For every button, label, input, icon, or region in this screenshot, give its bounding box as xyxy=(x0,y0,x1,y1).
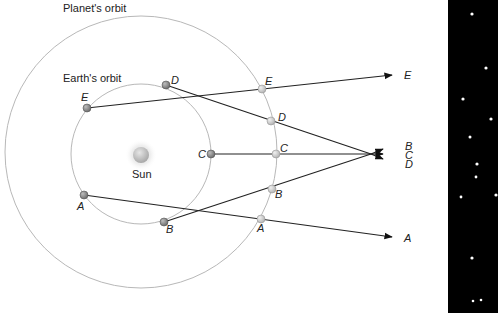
earth-label-b: B xyxy=(166,223,173,235)
earth-label-e: E xyxy=(81,91,89,103)
earth-label-c: C xyxy=(198,148,206,160)
sky-label-d: D xyxy=(405,158,413,170)
earth-label-a: A xyxy=(76,200,84,212)
sun-label: Sun xyxy=(132,168,152,180)
earth-position-d xyxy=(162,81,170,89)
planet-orbit-label: Planet's orbit xyxy=(63,2,126,14)
sightline-e xyxy=(87,75,392,108)
earth-position-c xyxy=(207,150,215,158)
planet-label-d: D xyxy=(278,111,286,123)
planet-position-d xyxy=(267,117,275,125)
retrograde-motion-diagram: Planet's orbit Earth's orbit Sun E D C B… xyxy=(0,0,498,319)
sun xyxy=(125,139,157,171)
star-field xyxy=(448,0,498,313)
sightline-a xyxy=(84,195,392,237)
sightline-b xyxy=(164,154,371,222)
earth-orbit-label: Earth's orbit xyxy=(63,72,121,84)
earth-position-a xyxy=(80,191,88,199)
planet-label-c: C xyxy=(280,142,288,154)
earth-position-e xyxy=(83,104,91,112)
planet-position-c xyxy=(272,150,280,158)
planet-label-b: B xyxy=(275,188,282,200)
sun-icon xyxy=(133,147,149,163)
planet-label-a: A xyxy=(256,222,264,234)
sky-label-e: E xyxy=(404,69,412,81)
sky-label-a: A xyxy=(403,232,411,244)
earth-label-d: D xyxy=(171,74,179,86)
planet-label-e: E xyxy=(265,75,273,87)
sky-background xyxy=(448,0,498,313)
